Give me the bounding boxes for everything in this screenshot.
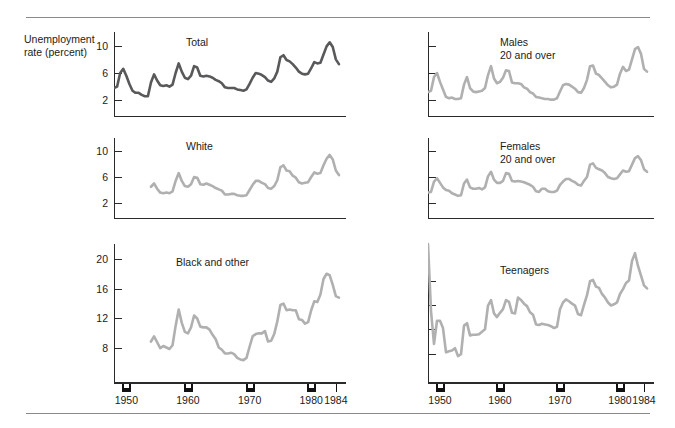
x-tick-1950 [122, 384, 131, 392]
x-tick-label-1984: 1984 [624, 395, 664, 406]
y-tick-label: 8 [82, 343, 108, 354]
x-tick-1960 [496, 384, 505, 392]
chart-panel-top-left: 2610Total [114, 32, 342, 114]
x-tick-1970 [556, 384, 565, 392]
series-plot [114, 244, 342, 378]
y-tick-label: 6 [82, 68, 108, 79]
x-tick-label-1950: 1950 [106, 395, 146, 406]
x-axis-line [428, 116, 654, 117]
y-tick-label: 20 [82, 254, 108, 265]
series-plot [114, 32, 342, 114]
x-tick-label-1950: 1950 [420, 395, 460, 406]
series-plot [428, 138, 650, 216]
y-tick-label: 12 [82, 313, 108, 324]
x-axis-line [428, 218, 654, 219]
x-tick-1960 [184, 384, 193, 392]
series-line [151, 155, 339, 196]
unemployment-rate-figure: Unemployment rate (percent) 2610Total261… [0, 0, 675, 428]
x-tick-1984 [336, 384, 337, 392]
chart-panel-middle-left: 2610White [114, 138, 342, 216]
series-line [428, 156, 647, 196]
x-axis-line [114, 218, 346, 219]
series-line [114, 42, 339, 96]
series-line [428, 47, 647, 100]
top-rule [26, 17, 650, 18]
x-tick-label-1960: 1960 [480, 395, 520, 406]
series-line [151, 274, 339, 360]
x-tick-label-1960: 1960 [168, 395, 208, 406]
y-tick-label: 10 [82, 146, 108, 157]
y-tick-label: 2 [82, 198, 108, 209]
x-axis-line [114, 116, 346, 117]
x-tick-1950 [436, 384, 445, 392]
y-tick-label: 16 [82, 284, 108, 295]
series-plot [428, 32, 650, 114]
chart-panel-top-right: Males 20 and over [428, 32, 650, 114]
y-tick-label: 6 [82, 172, 108, 183]
series-plot [114, 138, 342, 216]
x-tick-1970 [246, 384, 255, 392]
x-tick-label-1970: 1970 [540, 395, 580, 406]
x-tick-1984 [644, 384, 645, 392]
series-line [428, 244, 647, 356]
series-plot [428, 244, 650, 378]
chart-panel-bottom-right: Teenagers19501960197019801984 [428, 244, 650, 378]
bottom-rule [26, 413, 650, 414]
y-tick-label: 10 [82, 41, 108, 52]
chart-panel-bottom-left: 8121620Black and other195019601970198019… [114, 244, 342, 378]
chart-panel-middle-right: Females 20 and over [428, 138, 650, 216]
y-tick-label: 2 [82, 95, 108, 106]
x-tick-label-1970: 1970 [230, 395, 270, 406]
x-tick-label-1984: 1984 [316, 395, 356, 406]
x-tick-1980 [616, 384, 625, 392]
x-tick-1980 [307, 384, 316, 392]
